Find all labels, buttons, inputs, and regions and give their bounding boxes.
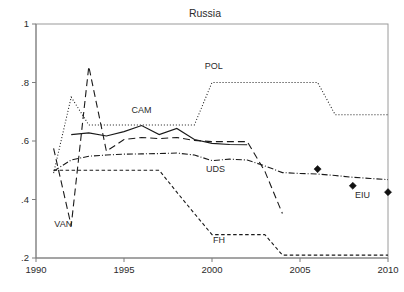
eiu-marker-point xyxy=(349,182,356,189)
series-label-pol: POL xyxy=(205,61,223,71)
series-label-fh: FH xyxy=(213,235,225,245)
x-tick-label: 2010 xyxy=(377,264,398,275)
chart-series xyxy=(54,66,388,255)
series-label-eiu: EIU xyxy=(355,190,370,200)
x-tick-label: 1995 xyxy=(113,264,134,275)
chart-series-labels: POLCAMVANUDSFHEIU xyxy=(54,61,370,244)
series-label-van: VAN xyxy=(54,219,72,229)
chart-title-group: Russia xyxy=(189,7,221,19)
series-label-uds: UDS xyxy=(206,164,225,174)
y-tick-label: .4 xyxy=(21,194,29,205)
y-tick-label: 1 xyxy=(24,18,29,29)
chart-figure: Russia .2.4.6.8119901995200020052010 POL… xyxy=(0,0,404,292)
series-label-cam: CAM xyxy=(132,105,152,115)
series-line-pol xyxy=(54,83,388,174)
x-tick-label: 2000 xyxy=(201,264,222,275)
y-tick-label: .8 xyxy=(21,77,29,88)
x-tick-label: 1990 xyxy=(25,264,46,275)
x-tick-label: 2005 xyxy=(289,264,310,275)
eiu-marker-point xyxy=(384,189,391,196)
eiu-marker-point xyxy=(314,165,321,172)
y-tick-label: .6 xyxy=(21,135,29,146)
chart-markers xyxy=(314,165,392,195)
series-line-van xyxy=(54,66,283,225)
chart-canvas: Russia .2.4.6.8119901995200020052010 POL… xyxy=(0,0,404,292)
chart-title: Russia xyxy=(189,7,221,19)
y-tick-label: .2 xyxy=(21,252,29,263)
chart-axes: .2.4.6.8119901995200020052010 xyxy=(21,18,399,275)
